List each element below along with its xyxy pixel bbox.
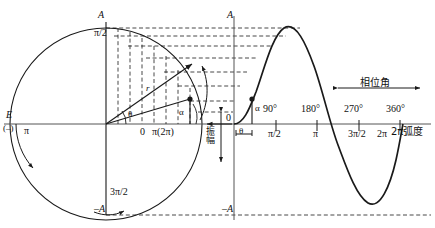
wave-theta-label: θ (239, 127, 243, 136)
phase-angle-label: 相位角 (360, 78, 390, 88)
radian-tick-pi: π (313, 129, 318, 139)
circle-top-amplitude-label: A (98, 10, 104, 20)
circle-left-sign-label: (–) (3, 124, 14, 133)
wave-top-amplitude-label: A (227, 10, 233, 20)
alpha-arc (193, 104, 197, 124)
radius-label: r (146, 84, 150, 93)
circle-left-E-label: E (6, 110, 12, 120)
figure-canvas: A π/2 –A 3π/2 E (–) π 0 π(2π) r θ α A –A… (0, 0, 435, 228)
wave-alpha-label: α (255, 104, 260, 113)
degree-tick-90: 90° (263, 104, 277, 114)
circle-bottom-angle-label: 3π/2 (110, 187, 128, 197)
theta-label-circle: θ (128, 110, 132, 119)
diagram-svg (0, 0, 435, 228)
radian-tick-2pi: 2π (377, 129, 387, 139)
radian-unit-label: 2π弧度 (391, 127, 423, 137)
degree-tick-360: 360° (386, 104, 405, 114)
wave-origin-label: 0 (226, 113, 231, 123)
radian-tick-3pi-over-2: 3π/2 (348, 129, 366, 139)
radius-vector-secondary (106, 99, 190, 124)
circle-origin-zero-label: 0 (140, 127, 145, 137)
sine-curve (234, 27, 403, 205)
amplitude-vertical-label: 振幅 (205, 126, 214, 144)
degree-tick-270: 270° (344, 104, 363, 114)
degree-tick-180: 180° (301, 104, 320, 114)
radian-tick-pi-over-2: π/2 (268, 129, 281, 139)
alpha-label-circle: α (179, 108, 184, 117)
circle-top-angle-label: π/2 (94, 28, 107, 38)
circle-bottom-amplitude-label: –A (94, 204, 105, 214)
circle-origin-angle-label: π(2π) (152, 127, 174, 137)
wave-bottom-amplitude-label: –A (222, 204, 233, 214)
circle-left-angle-label: π (24, 126, 29, 136)
